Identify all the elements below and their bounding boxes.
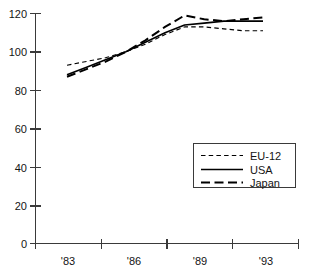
x-tick-label-89: '89	[193, 255, 207, 267]
series-line-usa	[67, 21, 263, 75]
x-axis-tick-labels: '83 '86 '89 '93	[61, 255, 273, 267]
x-tick-label-83: '83	[61, 255, 75, 267]
x-tick-label-86: '86	[127, 255, 141, 267]
legend-label-eu-12: EU-12	[250, 150, 281, 162]
y-tick-label-40: 40	[15, 162, 27, 174]
y-tick-label-20: 20	[15, 200, 27, 212]
y-tick-label-80: 80	[15, 85, 27, 97]
y-tick-label-100: 100	[9, 46, 27, 58]
legend-label-usa: USA	[250, 164, 273, 176]
chart-plot-area: 120 100 80 60 40 20 0 '83 '86 '89 '93	[0, 0, 311, 275]
y-tick-label-0: 0	[21, 238, 27, 250]
x-tick-label-93: '93	[259, 255, 273, 267]
legend-label-japan: Japan	[250, 177, 280, 189]
y-tick-label-120: 120	[9, 8, 27, 20]
series-line-japan	[67, 15, 263, 76]
data-series-group	[67, 15, 263, 76]
y-axis-tick-labels: 120 100 80 60 40 20 0	[9, 8, 27, 250]
chart-legend: EU-12 USA Japan	[194, 144, 296, 189]
line-chart: 120 100 80 60 40 20 0 '83 '86 '89 '93	[0, 0, 311, 275]
y-tick-label-60: 60	[15, 123, 27, 135]
